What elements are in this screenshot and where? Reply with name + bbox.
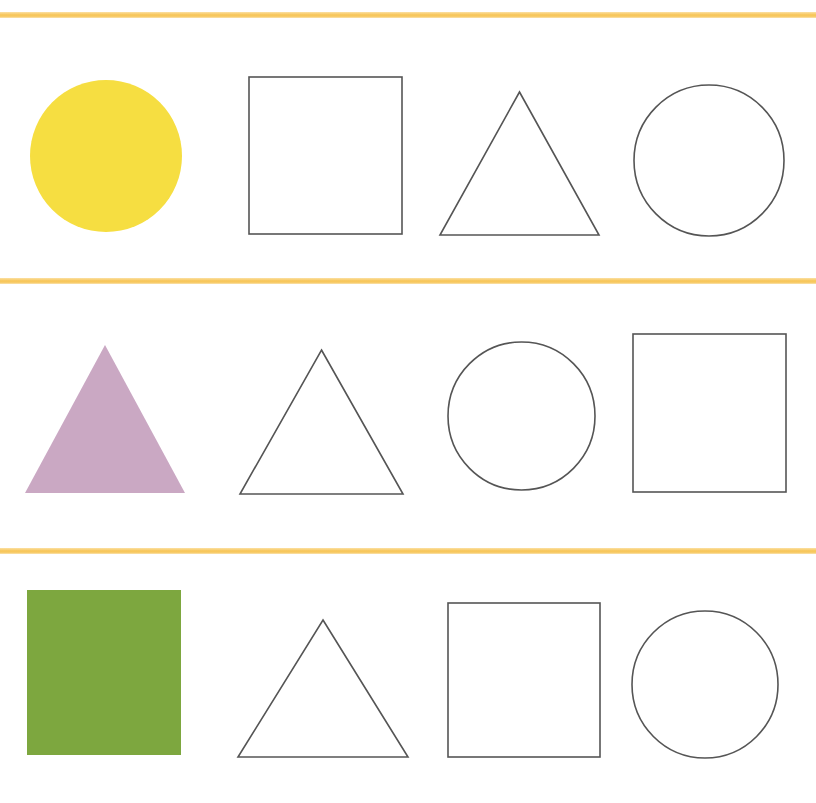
divider-middle xyxy=(0,278,816,284)
outline-square-3[interactable] xyxy=(445,600,603,760)
yellow-circle[interactable] xyxy=(27,77,185,235)
outline-circle-2[interactable] xyxy=(445,339,598,493)
outline-circle-3[interactable] xyxy=(629,608,781,761)
shapes-worksheet xyxy=(0,0,816,803)
outline-triangle-3[interactable] xyxy=(235,617,411,760)
outline-triangle-2[interactable] xyxy=(237,347,406,497)
outline-circle-1[interactable] xyxy=(631,82,787,239)
outline-triangle-1[interactable] xyxy=(437,89,602,238)
divider-bottom xyxy=(0,548,816,554)
outline-square-2[interactable] xyxy=(630,331,789,495)
green-square[interactable] xyxy=(24,587,184,758)
purple-triangle[interactable] xyxy=(22,342,188,496)
divider-top xyxy=(0,12,816,18)
outline-square-1[interactable] xyxy=(246,74,405,237)
